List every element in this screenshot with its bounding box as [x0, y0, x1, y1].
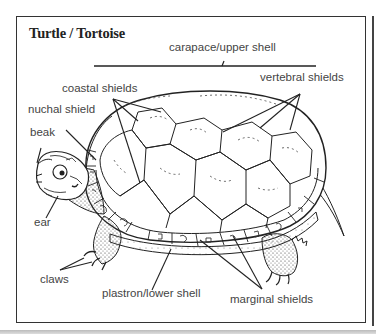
label-carapace: carapace/upper shell	[169, 41, 276, 53]
label-claws: claws	[40, 273, 69, 285]
diagram-title: Turtle / Tortoise	[29, 25, 125, 42]
front-leg	[84, 216, 121, 270]
label-nuchal-shield: nuchal shield	[28, 103, 95, 115]
label-plastron: plastron/lower shell	[102, 287, 200, 299]
label-coastal-shields: coastal shields	[62, 82, 137, 94]
turtle-head	[36, 152, 89, 200]
label-marginal-shields: marginal shields	[230, 293, 313, 305]
carapace-outline	[86, 91, 326, 242]
label-beak: beak	[30, 126, 55, 138]
label-vertebral-shields: vertebral shields	[260, 71, 344, 83]
label-ear: ear	[34, 216, 51, 228]
